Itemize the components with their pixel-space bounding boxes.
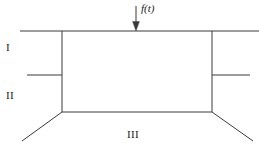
region-label-ii: II — [6, 90, 14, 101]
left-diagonal-line — [22, 112, 62, 141]
region-label-iii: III — [127, 129, 139, 140]
structural-frame-figure: I II III f(t) — [0, 0, 259, 158]
load-arrow-head — [133, 22, 140, 32]
region-label-i: I — [6, 42, 10, 53]
load-force-label: f(t) — [141, 3, 154, 14]
right-diagonal-line — [212, 112, 253, 141]
